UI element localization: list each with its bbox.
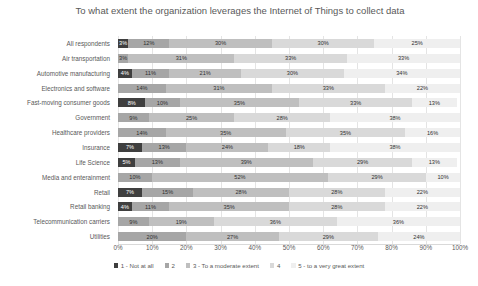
x-tick-label: 70% [351, 244, 364, 251]
legend-label: 2 [172, 262, 175, 269]
bar-value-label: 13% [152, 159, 163, 165]
x-tick-label: 90% [419, 244, 432, 251]
bar-value-label: 38% [389, 144, 400, 150]
category-label: Air transportation [62, 54, 110, 63]
category-label: Utilities [90, 232, 110, 241]
bar-value-label: 8% [128, 100, 136, 106]
bar-segment: 11% [132, 69, 170, 78]
legend-item[interactable]: 2 [165, 262, 175, 269]
bar-segment: 34% [344, 69, 460, 78]
legend-swatch-icon [270, 263, 275, 268]
bar-segment: 31% [166, 84, 272, 93]
bar-value-label: 33% [323, 85, 334, 91]
bar-value-label: 33% [398, 55, 409, 61]
bar-segment: 18% [268, 143, 330, 152]
bar-value-label: 25% [186, 115, 197, 121]
x-tick-label: 10% [146, 244, 159, 251]
legend-swatch-icon [291, 263, 296, 268]
bar-segment: 7% [118, 143, 142, 152]
bar-value-label: 5% [123, 159, 131, 165]
bar-segment: 22% [385, 202, 460, 211]
bar-segment: 7% [118, 188, 142, 197]
bar-value-label: 21% [200, 70, 211, 76]
bar-value-label: 29% [357, 159, 368, 165]
bar-value-label: 38% [389, 115, 400, 121]
bar-row: 9%25%28%38% [118, 113, 460, 122]
bar-segment: 4% [118, 202, 132, 211]
bar-row: 14%35%35%16% [118, 128, 460, 137]
bar-segment: 3% [118, 54, 128, 63]
bar-segment: 14% [118, 84, 166, 93]
bar-segment: 33% [347, 54, 460, 63]
bar-segment: 28% [289, 188, 385, 197]
bar-segment: 8% [118, 98, 145, 107]
bar-value-label: 36% [270, 219, 281, 225]
bar-value-label: 14% [136, 85, 147, 91]
bar-segment: 10% [118, 173, 152, 182]
bar-value-label: 30% [215, 40, 226, 46]
bar-value-label: 36% [393, 219, 404, 225]
category-label: Media and enterainment [42, 173, 110, 182]
bar-value-label: 11% [145, 70, 156, 76]
bar-segment: 5% [118, 158, 135, 167]
bar-segment: 24% [186, 143, 268, 152]
bar-row: 5%13%39%29%13% [118, 158, 460, 167]
x-tick-label: 30% [214, 244, 227, 251]
bar-segment: 11% [132, 202, 170, 211]
category-label: Automotive manufacturing [37, 69, 110, 78]
legend-item[interactable]: 5 - to a very great extent [291, 262, 364, 269]
bar-rows: 3%12%30%30%25%0%3%31%33%33%4%11%21%30%34… [118, 36, 460, 244]
x-tick-label: 100% [452, 244, 468, 251]
bar-segment: 28% [193, 188, 289, 197]
bar-value-label: 22% [417, 85, 428, 91]
bar-segment: 15% [142, 188, 193, 197]
bar-segment: 20% [118, 232, 186, 241]
bar-segment: 30% [169, 39, 272, 48]
bar-row: 10%52%29%10% [118, 173, 460, 182]
bar-value-label: 29% [371, 174, 382, 180]
bar-value-label: 34% [396, 70, 407, 76]
bar-value-label: 33% [285, 55, 296, 61]
bar-value-label: 20% [147, 234, 158, 240]
bar-value-label: 10% [437, 174, 448, 180]
bar-value-label: 35% [234, 100, 245, 106]
bar-segment: 29% [313, 158, 412, 167]
bar-value-label: 9% [129, 115, 137, 121]
bar-row: 4%11%35%28%22% [118, 202, 460, 211]
bar-segment: 3% [118, 39, 128, 48]
bar-value-label: 22% [417, 189, 428, 195]
x-tick-label: 80% [385, 244, 398, 251]
category-label: Government [75, 113, 110, 122]
bar-segment: 13% [412, 158, 456, 167]
category-label: Retail [94, 188, 110, 197]
bar-segment: 25% [149, 113, 235, 122]
bar-segment: 24% [378, 232, 460, 241]
bar-value-label: 7% [126, 189, 134, 195]
x-axis-ticks: 0%10%20%30%40%50%60%70%80%90%100% [118, 244, 460, 256]
bar-value-label: 24% [222, 144, 233, 150]
bar-row: 0%3%31%33%33% [118, 54, 460, 63]
bar-segment: 33% [299, 98, 412, 107]
legend-item[interactable]: 4 [270, 262, 280, 269]
x-tick-label: 0% [113, 244, 122, 251]
bar-segment: 22% [385, 188, 460, 197]
gridline [460, 36, 461, 244]
bar-segment: 21% [169, 69, 241, 78]
bar-value-label: 3% [119, 40, 127, 46]
bar-value-label: 13% [429, 159, 440, 165]
plot-area: 3%12%30%30%25%0%3%31%33%33%4%11%21%30%34… [118, 36, 460, 244]
bar-value-label: 15% [162, 189, 173, 195]
bar-segment: 10% [145, 98, 179, 107]
bar-segment: 10% [426, 173, 460, 182]
legend-item[interactable]: 3 - To a moderate extent [186, 262, 259, 269]
bar-value-label: 10% [157, 100, 168, 106]
bar-segment: 30% [241, 69, 344, 78]
bar-value-label: 3% [119, 55, 127, 61]
bar-segment: 35% [286, 128, 406, 137]
chart-container: To what extent the organization leverage… [0, 0, 478, 286]
x-tick-label: 40% [248, 244, 261, 251]
category-label: Retail banking [70, 202, 110, 211]
category-label: Electronics and software [41, 84, 110, 93]
legend-item[interactable]: 1 - Not at all [114, 262, 154, 269]
category-axis-labels: All respondentsAir transportationAutomot… [0, 36, 114, 244]
